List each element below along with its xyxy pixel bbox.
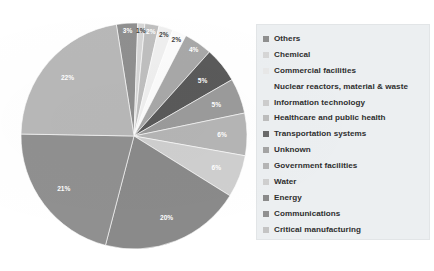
pie-slice-label: 5%	[212, 101, 222, 108]
legend-swatch-icon	[263, 115, 269, 121]
legend-item[interactable]: Water	[263, 174, 425, 190]
legend-item[interactable]: Nuclear reactors, material & waste	[263, 79, 425, 95]
pie-slice[interactable]	[21, 24, 134, 136]
legend-item[interactable]: Critical manufacturing	[263, 222, 425, 238]
legend-item[interactable]: Commercial facilities	[263, 63, 425, 79]
pie-slice-label: 5%	[198, 77, 208, 84]
legend-item[interactable]: Chemical	[263, 47, 425, 63]
legend-swatch-icon	[263, 163, 269, 169]
pie-chart-figure: 3%1%2%2%2%4%5%5%6%6%20%21%22% OthersChem…	[0, 0, 434, 271]
pie-slice-label: 22%	[61, 74, 74, 81]
legend-item-label: Chemical	[274, 47, 310, 63]
legend-item[interactable]: Energy	[263, 190, 425, 206]
pie-slice-label: 2%	[159, 31, 169, 38]
legend-item-label: Water	[274, 174, 296, 190]
pie-slice-label: 6%	[212, 164, 222, 171]
legend-item-label: Commercial facilities	[274, 63, 356, 79]
legend-swatch-icon	[263, 36, 269, 42]
legend-item-label: Communications	[274, 206, 340, 222]
pie-slice-label: 6%	[217, 131, 227, 138]
legend-swatch-icon	[263, 227, 269, 233]
legend-swatch-icon	[263, 147, 269, 153]
legend-item[interactable]: Unknown	[263, 142, 425, 158]
pie-chart-plot-area: 3%1%2%2%2%4%5%5%6%6%20%21%22%	[18, 8, 254, 264]
legend-item-label: Transportation systems	[274, 126, 366, 142]
legend-item-label: Healthcare and public health	[274, 110, 386, 126]
legend-item[interactable]: Communications	[263, 206, 425, 222]
legend-swatch-icon	[263, 131, 269, 137]
legend-swatch-icon	[263, 211, 269, 217]
legend-swatch-icon	[263, 100, 269, 106]
legend-item[interactable]: Information technology	[263, 95, 425, 111]
pie-slice-label: 20%	[160, 214, 173, 221]
pie-slices-group	[21, 23, 247, 249]
pie-chart-svg: 3%1%2%2%2%4%5%5%6%6%20%21%22%	[18, 8, 254, 264]
legend-item[interactable]: Healthcare and public health	[263, 110, 425, 126]
pie-slice-label: 2%	[172, 36, 182, 43]
legend-swatch-icon	[263, 84, 269, 90]
legend-item-label: Unknown	[274, 142, 311, 158]
pie-slice-label: 1%	[136, 27, 146, 34]
pie-slice-label: 21%	[57, 185, 70, 192]
legend-swatch-icon	[263, 179, 269, 185]
legend-item-label: Nuclear reactors, material & waste	[274, 79, 408, 95]
legend-swatch-icon	[263, 68, 269, 74]
legend-item-label: Government facilities	[274, 158, 357, 174]
legend-item-label: Energy	[274, 190, 302, 206]
pie-slice-label: 3%	[123, 27, 133, 34]
chart-legend: OthersChemicalCommercial facilitiesNucle…	[256, 24, 430, 240]
legend-item[interactable]: Others	[263, 31, 425, 47]
legend-item-label: Critical manufacturing	[274, 222, 361, 238]
legend-item-label: Others	[274, 31, 300, 47]
pie-slice-label: 2%	[146, 28, 156, 35]
pie-slice-label: 4%	[189, 46, 199, 53]
legend-item[interactable]: Transportation systems	[263, 126, 425, 142]
legend-swatch-icon	[263, 52, 269, 58]
legend-item[interactable]: Government facilities	[263, 158, 425, 174]
legend-item-label: Information technology	[274, 95, 365, 111]
legend-swatch-icon	[263, 195, 269, 201]
